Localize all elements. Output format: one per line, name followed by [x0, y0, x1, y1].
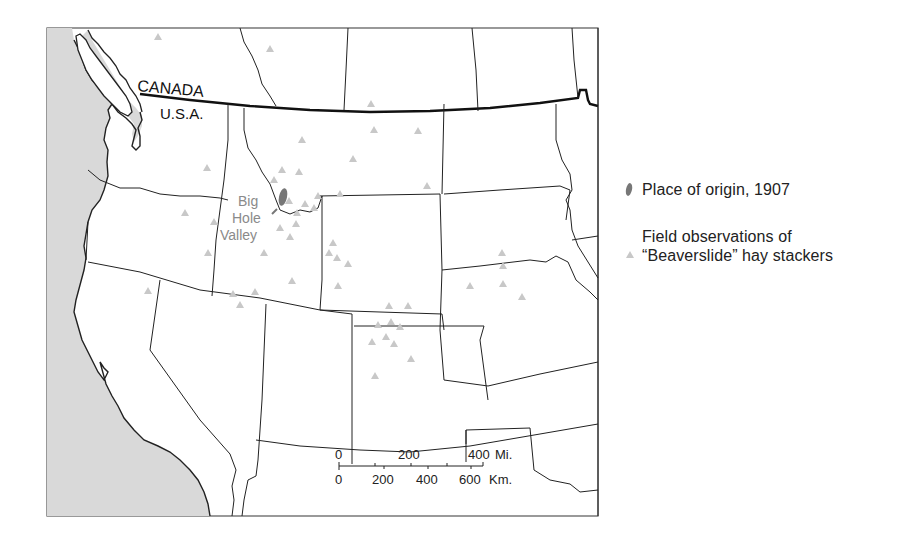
map-figure: CANADA U.S.A. Big Hole Valley 0 200 400 …	[0, 0, 913, 545]
triangle-icon	[626, 251, 634, 258]
map-canvas: CANADA U.S.A. Big Hole Valley 0 200 400 …	[0, 0, 913, 545]
scale-km-600: 600	[459, 472, 481, 487]
scale-mi-unit: Mi.	[495, 447, 512, 462]
label-valley: Valley	[220, 227, 257, 243]
scale-km-0: 0	[335, 472, 342, 487]
scale-mi-0: 0	[335, 447, 342, 462]
label-usa: U.S.A.	[160, 105, 203, 122]
scale-km-400: 400	[416, 472, 438, 487]
legend: Place of origin, 1907 Field observations…	[620, 180, 910, 237]
legend-origin-label: Place of origin, 1907	[642, 181, 790, 198]
legend-obs-line1: Field observations of	[642, 227, 910, 246]
scale-km-200: 200	[372, 472, 394, 487]
scale-mi-400: 400	[468, 447, 490, 462]
legend-observations: Field observations of “Beaverslide” hay …	[620, 227, 910, 265]
legend-obs-line2: “Beaverslide” hay stackers	[642, 246, 910, 265]
label-hole: Hole	[232, 210, 261, 226]
scale-mi-200: 200	[398, 447, 420, 462]
legend-origin: Place of origin, 1907	[620, 180, 910, 199]
scale-km-unit: Km.	[489, 472, 512, 487]
label-big: Big	[238, 193, 258, 209]
origin-ellipse-icon	[625, 183, 634, 197]
